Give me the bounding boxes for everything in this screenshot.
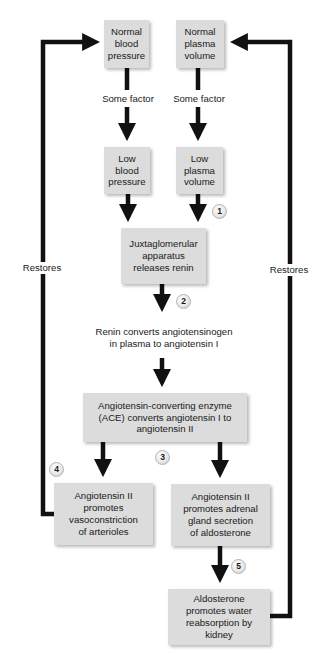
box-juxtaglomerular-apparatus: Juxtaglomerular apparatus releases renin: [121, 228, 206, 284]
label-restores-right: Restores: [266, 264, 312, 276]
box-normal-plasma-volume: Normal plasma volume: [176, 20, 224, 68]
label-some-factor-left: Some factor: [100, 93, 156, 105]
label-some-factor-right: Some factor: [171, 93, 227, 105]
step-badge-3: 3: [155, 450, 170, 465]
box-ace-conversion: Angiotensin-converting enzyme (ACE) conv…: [83, 393, 247, 442]
box-aldosterone-reabsorption: Aldosterone promotes water reabsorption …: [168, 589, 270, 645]
step-badge-1: 1: [212, 204, 227, 219]
box-low-plasma-volume: Low plasma volume: [176, 147, 223, 194]
label-renin-converts: Renin converts angiotensinogen in plasma…: [80, 326, 248, 350]
box-adrenal-aldosterone: Angiotensin II promotes adrenal gland se…: [171, 484, 270, 546]
box-normal-blood-pressure: Normal blood pressure: [104, 20, 149, 68]
label-restores-left: Restores: [20, 262, 64, 274]
box-low-blood-pressure: Low blood pressure: [104, 147, 150, 194]
box-vasoconstriction: Angiotensin II promotes vasoconstriction…: [54, 483, 153, 545]
step-badge-4: 4: [49, 462, 64, 477]
step-badge-5: 5: [231, 559, 246, 574]
step-badge-2: 2: [176, 294, 191, 309]
